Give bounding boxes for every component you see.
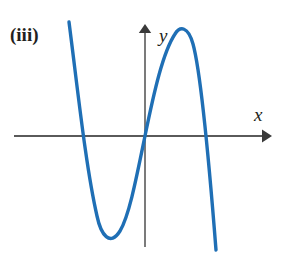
graph-svg: (iii) y x: [0, 0, 284, 260]
figure-container: (iii) y x: [0, 0, 284, 260]
x-axis-arrowhead: [262, 130, 272, 143]
y-axis-label: y: [157, 25, 168, 46]
x-axis-label: x: [253, 104, 263, 125]
y-axis-arrowhead: [139, 24, 151, 33]
part-label: (iii): [10, 24, 39, 46]
